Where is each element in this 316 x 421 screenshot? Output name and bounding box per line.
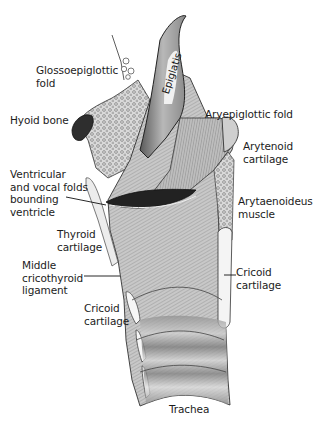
label-aryepiglottic-fold: Aryepiglottic fold (205, 108, 293, 121)
label-glossoepiglottic-fold: Glossoepiglottic fold (36, 64, 118, 89)
larynx-diagram: Glossoepiglottic fold Epiglatis Hyoid bo… (0, 0, 316, 421)
label-trachea: Trachea (169, 403, 209, 416)
trachea-shape (140, 316, 228, 405)
cricoid-cartilage-right-shape (218, 228, 232, 329)
arytenoid-cartilage-shape (222, 117, 238, 152)
label-hyoid-bone: Hyoid bone (10, 114, 69, 127)
label-middle-cricothyroid-ligament: Middle cricothyroid ligament (22, 259, 83, 297)
label-cricoid-cartilage-left: Cricoid cartilage (84, 302, 129, 327)
label-arytaenoideus-muscle: Arytaenoideus muscle (238, 195, 313, 220)
label-arytenoid-cartilage: Arytenoid cartilage (243, 140, 293, 165)
label-ventricular-vocal-folds: Ventricular and vocal folds bounding ven… (10, 168, 88, 218)
label-cricoid-cartilage-right: Cricoid cartilage (236, 266, 281, 291)
label-thyroid-cartilage: Thyroid cartilage (57, 228, 102, 253)
